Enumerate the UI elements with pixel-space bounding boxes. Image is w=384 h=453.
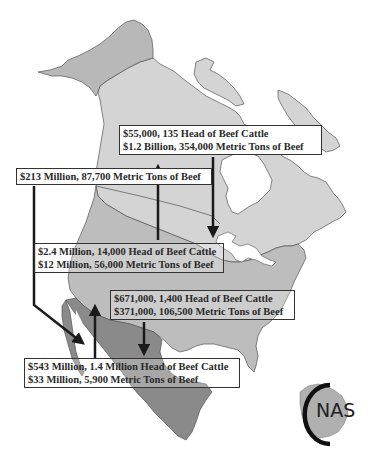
label-mexico-to-us-line1: $543 Million, 1.4 Million Head of Beef C… (28, 360, 236, 373)
label-canada-to-us: $55,000, 135 Head of Beef Cattle $1.2 Bi… (119, 125, 322, 155)
label-canada-to-us-line2: $1.2 Billion, 354,000 Metric Tons of Bee… (123, 140, 318, 153)
label-us-to-mexico-beef: $213 Million, 87,700 Metric Tons of Beef (16, 168, 212, 185)
logo-text: NAS (316, 399, 355, 421)
label-us-to-mexico: $671,000, 1,400 Head of Beef Cattle $371… (110, 290, 295, 320)
label-us-to-mexico-beef-line1: $213 Million, 87,700 Metric Tons of Beef (20, 170, 208, 183)
label-us-to-canada: $2.4 Million, 14,000 Head of Beef Cattle… (34, 243, 224, 273)
label-mexico-to-us: $543 Million, 1.4 Million Head of Beef C… (24, 358, 240, 388)
label-mexico-to-us-line2: $33 Million, 5,900 Metric Tons of Beef (28, 373, 236, 386)
label-us-to-mexico-line1: $671,000, 1,400 Head of Beef Cattle (114, 292, 291, 305)
label-canada-to-us-line1: $55,000, 135 Head of Beef Cattle (123, 127, 318, 140)
label-us-to-canada-line2: $12 Million, 56,000 Metric Tons of Beef (38, 258, 220, 271)
label-us-to-mexico-line2: $371,000, 106,500 Metric Tons of Beef (114, 305, 291, 318)
label-us-to-canada-line1: $2.4 Million, 14,000 Head of Beef Cattle (38, 245, 220, 258)
